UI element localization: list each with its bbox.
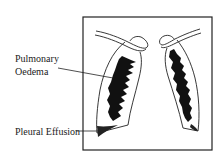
pulmonary-oedema-label-line2: Oedema bbox=[15, 66, 48, 77]
pleural-effusion-shading-right bbox=[97, 125, 118, 137]
chest-xray-diagram: Pulmonary Oedema Pleural Effusion bbox=[0, 0, 223, 160]
right-clavicle-icon bbox=[95, 31, 148, 51]
pleural-effusion-label: Pleural Effusion bbox=[15, 126, 80, 137]
pulmonary-oedema-label-line1: Pulmonary bbox=[15, 53, 59, 64]
oedema-shading-right bbox=[107, 56, 136, 121]
